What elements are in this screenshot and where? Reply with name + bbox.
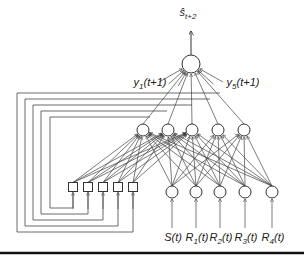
input-label-1: R1(t) [186,231,209,246]
output-node [182,55,200,73]
input-label-3: R3(t) [235,231,258,246]
input-node [190,186,202,198]
context-unit [129,183,138,192]
output-label: ŝt+2 [180,6,197,21]
y5-label: y5(t+1) [226,76,260,91]
input-node [214,186,226,198]
input-node [239,186,251,198]
input-label-4: R4(t) [262,231,285,246]
hidden-node [137,124,149,136]
context-unit [69,183,78,192]
labels: ŝt+2y1(t+1)y5(t+1)S(t)R1(t)R2(t)R3(t)R4(… [133,6,285,246]
y1-label: y1(t+1) [133,76,167,91]
hidden-node [162,124,174,136]
rnn-diagram: ŝt+2y1(t+1)y5(t+1)S(t)R1(t)R2(t)R3(t)R4(… [0,0,304,258]
context-unit [84,183,93,192]
context-unit [99,183,108,192]
input-node [166,186,178,198]
input-label-2: R2(t) [210,231,233,246]
context-unit [114,183,123,192]
hidden-node [212,124,224,136]
input-label-0: S(t) [164,231,182,243]
hidden-node [186,124,198,136]
hidden-node [238,124,250,136]
input-node [266,186,278,198]
